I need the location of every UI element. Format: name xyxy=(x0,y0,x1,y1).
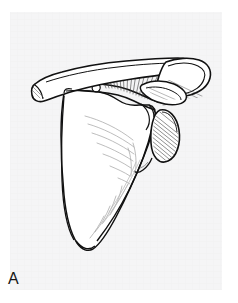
glenoid-outline xyxy=(151,110,180,162)
figure-label: A xyxy=(8,269,19,288)
figure-panel: A xyxy=(0,0,238,303)
scapula-clavicle-line-drawing xyxy=(0,0,238,303)
